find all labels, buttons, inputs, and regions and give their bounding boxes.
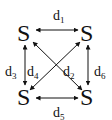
label-d4: d4 [27, 64, 39, 81]
edge-d4-arrow [33, 42, 82, 90]
edge-d2-arrow [30, 42, 80, 90]
distance-diagram: S S S S d1 d2 d3 d4 d5 d6 [0, 0, 112, 120]
label-d1: d1 [53, 8, 65, 25]
node-bottom-left: S [17, 84, 30, 110]
label-d6: d6 [94, 64, 106, 81]
node-bottom-right: S [80, 84, 93, 110]
node-top-right: S [80, 20, 93, 46]
node-top-left: S [17, 20, 30, 46]
label-d2: d2 [63, 64, 75, 81]
label-d5: d5 [53, 105, 65, 120]
label-d3: d3 [5, 64, 17, 81]
